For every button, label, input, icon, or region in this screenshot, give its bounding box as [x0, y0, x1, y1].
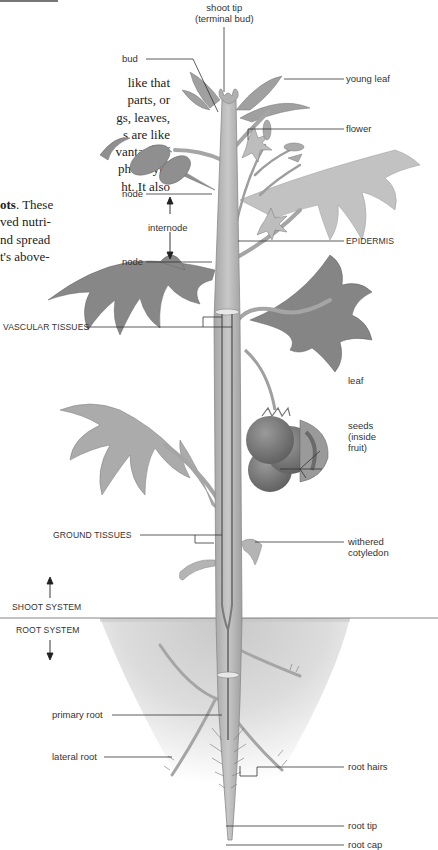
- label-primary-root: primary root: [52, 709, 103, 720]
- label-young-leaf: young leaf: [346, 73, 390, 84]
- label-shoot-system: SHOOT SYSTEM: [12, 602, 81, 613]
- label-lateral-root: lateral root: [52, 751, 97, 762]
- leaves-left-lower: [60, 404, 218, 510]
- label-root-system: ROOT SYSTEM: [16, 625, 80, 636]
- label-shoot-tip: shoot tip (terminal bud): [195, 2, 254, 24]
- young-leaves: [182, 72, 310, 122]
- label-vascular-tissues: VASCULAR TISSUES: [3, 322, 89, 333]
- label-line: withered: [348, 536, 389, 547]
- label-line: cotyledon: [348, 547, 389, 558]
- label-root-tip: root tip: [348, 820, 377, 831]
- label-line: (inside: [348, 431, 376, 442]
- label-seeds: seeds (inside fruit): [348, 420, 376, 453]
- label-root-hairs: root hairs: [348, 761, 388, 772]
- label-line: shoot tip: [195, 2, 254, 13]
- label-leaf: leaf: [348, 375, 363, 386]
- label-line: (terminal bud): [195, 13, 254, 24]
- label-bud: bud: [122, 53, 138, 64]
- label-epidermis: EPIDERMIS: [346, 236, 394, 247]
- label-ground-tissues: GROUND TISSUES: [53, 530, 132, 541]
- label-line: seeds: [348, 420, 376, 431]
- label-line: fruit): [348, 442, 376, 453]
- tomato-fruit: [245, 350, 328, 492]
- label-root-cap: root cap: [348, 839, 382, 850]
- leaves-left-upper: [100, 138, 215, 190]
- stem-section-upper: [215, 309, 239, 315]
- system-arrows: [47, 577, 53, 660]
- label-node-lower: node: [122, 256, 143, 267]
- leaf-right-dark: [250, 255, 372, 372]
- stem-section-lower: [217, 672, 239, 678]
- label-withered-cotyledon: withered cotyledon: [348, 536, 389, 558]
- label-flower: flower: [346, 123, 371, 134]
- label-node-upper: node: [122, 188, 143, 199]
- label-internode: internode: [148, 222, 188, 233]
